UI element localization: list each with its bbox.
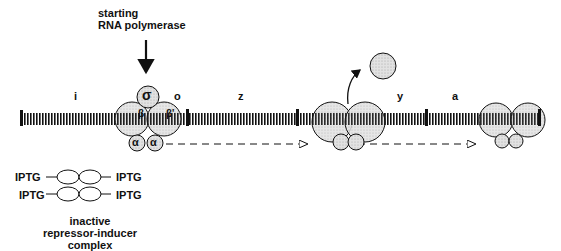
iptg-label-left-bottom: IPTG (19, 189, 45, 201)
repressor-inducer-complex (46, 170, 111, 201)
alpha-subunit-4 (348, 134, 364, 150)
gene-label-o: o (174, 90, 181, 102)
repressor-subunit-4 (79, 187, 101, 201)
alpha-label-1: α (132, 136, 139, 148)
repressor-subunit-1 (57, 170, 79, 184)
released-sigma-subunit (370, 53, 396, 79)
alpha-label-2: α (150, 136, 157, 148)
dna-strand (20, 109, 541, 126)
alpha-subunit-5 (495, 134, 509, 148)
iptg-label-right-bottom: IPTG (116, 189, 142, 201)
beta-prime-label: β' (166, 108, 174, 120)
lac-operon-diagram (0, 0, 561, 251)
caption-line-2: repressor-inducer (30, 227, 150, 239)
sigma-label: σ (142, 89, 152, 101)
repressor-subunit-3 (57, 187, 79, 201)
alpha-subunit-6 (509, 134, 523, 148)
iptg-label-left-top: IPTG (15, 171, 41, 183)
gene-label-z: z (238, 90, 244, 102)
gene-label-a: a (452, 90, 458, 102)
caption-line-3: complex (30, 239, 150, 251)
sigma-release-arrow (348, 70, 360, 104)
rna-polymerase-downstream (479, 103, 545, 148)
gene-label-i: i (74, 90, 77, 102)
rna-polymerase-elongating (312, 53, 396, 150)
repressor-complex-caption: inactive repressor-inducer complex (30, 215, 150, 251)
caption-line-1: inactive (30, 215, 150, 227)
iptg-label-right-top: IPTG (116, 171, 142, 183)
alpha-subunit-3 (333, 134, 349, 150)
beta-label: β (138, 108, 144, 120)
gene-label-y: y (397, 90, 403, 102)
repressor-subunit-2 (79, 170, 101, 184)
